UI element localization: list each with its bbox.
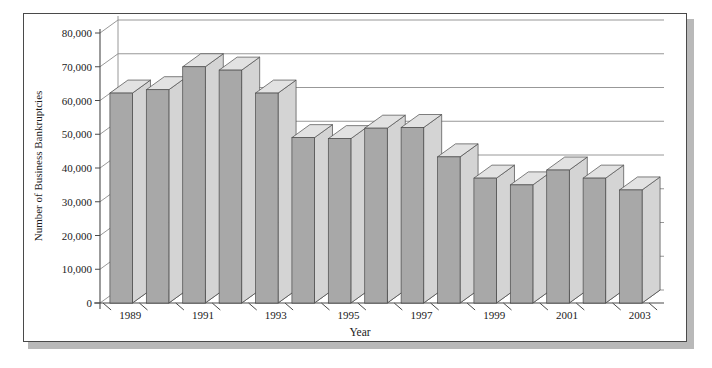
chart-figure: Number of Business Bankruptcies Year 010…	[0, 0, 712, 368]
y-tick-label: 10,000	[36, 263, 92, 275]
y-tick-label: 40,000	[36, 162, 92, 174]
y-tick-label: 50,000	[36, 128, 92, 140]
x-axis-title: Year	[300, 326, 420, 338]
x-tick-label: 1995	[319, 309, 379, 321]
x-tick-label: 2001	[537, 309, 597, 321]
y-tick-label: 30,000	[36, 196, 92, 208]
x-tick-label: 1999	[464, 309, 524, 321]
y-tick-label: 60,000	[36, 95, 92, 107]
y-tick-label: 70,000	[36, 61, 92, 73]
x-tick-label: 1989	[100, 309, 160, 321]
x-tick-label: 1997	[391, 309, 451, 321]
y-tick-label: 0	[36, 297, 92, 309]
x-tick-label: 2003	[610, 309, 670, 321]
y-tick-label: 20,000	[36, 230, 92, 242]
chart-frame	[23, 13, 687, 342]
x-tick-label: 1991	[173, 309, 233, 321]
y-tick-label: 80,000	[36, 27, 92, 39]
x-tick-label: 1993	[246, 309, 306, 321]
